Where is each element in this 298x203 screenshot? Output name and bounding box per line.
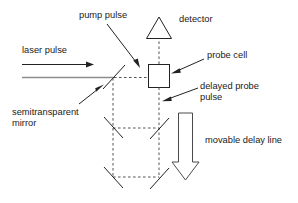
- label-probe-cell: probe cell: [207, 50, 247, 60]
- label-pump-pulse: pump pulse: [79, 10, 127, 20]
- optical-setup-diagram: pump pulse detector laser pulse probe ce…: [0, 0, 298, 203]
- label-movable-delay-line: movable delay line: [205, 135, 282, 145]
- movable-delay-arrow: [172, 113, 199, 180]
- delay-mirror-top-right: [150, 118, 169, 139]
- delay-mirror-bottom-right: [150, 168, 169, 189]
- label-semitransparent-mirror-line2: mirror: [12, 118, 36, 128]
- diagram-canvas: pump pulse detector laser pulse probe ce…: [0, 0, 298, 203]
- label-delayed-probe-pulse-line1: delayed probe: [200, 81, 259, 91]
- label-laser-pulse: laser pulse: [22, 45, 67, 55]
- delayed-probe-pulse-leader: [162, 88, 198, 101]
- label-semitransparent-mirror-line1: semitransparent: [12, 107, 79, 117]
- probe-cell-leader: [171, 59, 204, 74]
- detector-triangle: [147, 17, 172, 39]
- label-delayed-probe-pulse-line2: pulse: [200, 92, 222, 102]
- pump-pulse-leader: [107, 24, 140, 68]
- laser-pulse-arrow: [22, 62, 94, 68]
- label-detector: detector: [179, 14, 213, 24]
- semitransparent-mirror-leader: [79, 85, 104, 105]
- probe-cell-box: [149, 65, 170, 88]
